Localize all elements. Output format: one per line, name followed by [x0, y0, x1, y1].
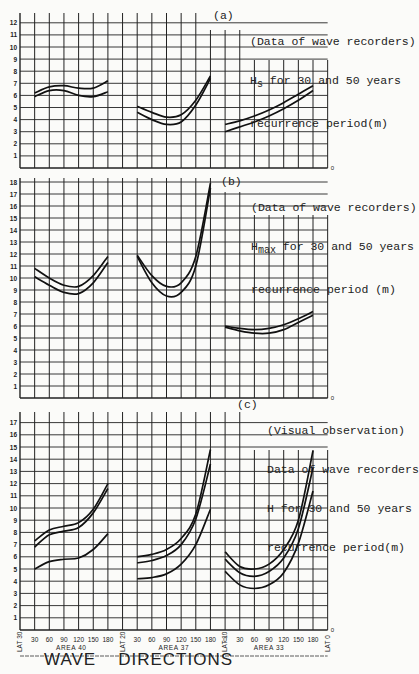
svg-text:4: 4	[13, 116, 17, 123]
svg-text:13: 13	[10, 468, 18, 475]
svg-text:90: 90	[265, 636, 273, 643]
svg-text:6: 6	[13, 92, 17, 99]
svg-text:18: 18	[10, 179, 18, 186]
panel-b-label: (b)	[221, 175, 242, 188]
curve-middle	[137, 464, 210, 563]
svg-text:180: 180	[102, 636, 113, 643]
svg-text:LAT 30: LAT 30	[16, 631, 23, 652]
svg-text:12: 12	[10, 480, 18, 487]
svg-text:9: 9	[13, 287, 17, 294]
svg-text:16: 16	[10, 203, 18, 210]
svg-text:8: 8	[13, 68, 17, 75]
x-axis-title: WAVEDIRECTIONS	[44, 650, 255, 670]
svg-text:5: 5	[13, 566, 17, 573]
svg-text:30: 30	[236, 636, 244, 643]
svg-text:LAT 0: LAT 0	[324, 635, 331, 652]
panel-a-label: (a)	[213, 9, 234, 22]
svg-text:9: 9	[13, 56, 17, 63]
svg-text:3: 3	[13, 359, 17, 366]
svg-text:14: 14	[10, 227, 18, 234]
panel-b-annotation: (Data of wave recorders) Hmax for 30 and…	[251, 175, 417, 309]
svg-text:0: 0	[331, 165, 335, 171]
svg-text:14: 14	[10, 456, 18, 463]
svg-text:5: 5	[13, 335, 17, 342]
svg-text:1: 1	[13, 614, 17, 621]
curve-50-years	[137, 183, 210, 287]
svg-text:6: 6	[13, 553, 17, 560]
svg-text:LAT 20: LAT 20	[119, 631, 126, 652]
curve-middle	[35, 488, 108, 547]
curve-50-years	[137, 76, 210, 117]
svg-text:11: 11	[10, 31, 17, 38]
svg-text:0: 0	[331, 627, 335, 633]
svg-text:11: 11	[10, 263, 17, 270]
svg-text:15: 15	[10, 444, 18, 451]
panel-a-annotation: (Data of wave recorders) Hs for 30 and 5…	[250, 9, 416, 143]
svg-text:8: 8	[13, 529, 17, 536]
svg-text:120: 120	[73, 636, 84, 643]
svg-text:180: 180	[308, 636, 319, 643]
svg-text:9: 9	[13, 517, 17, 524]
svg-text:180: 180	[205, 636, 216, 643]
svg-text:30: 30	[134, 636, 142, 643]
panel-c-annotation: (Visual observation) Data of wave record…	[267, 398, 419, 567]
svg-text:5: 5	[13, 104, 17, 111]
curve-lower	[137, 509, 210, 579]
svg-text:60: 60	[148, 636, 156, 643]
svg-text:LAT 10: LAT 10	[221, 631, 228, 652]
svg-text:10: 10	[10, 44, 18, 51]
svg-text:2: 2	[13, 371, 17, 378]
svg-text:10: 10	[10, 505, 18, 512]
svg-text:7: 7	[13, 541, 17, 548]
svg-text:7: 7	[13, 80, 17, 87]
svg-text:120: 120	[176, 636, 187, 643]
svg-text:4: 4	[13, 578, 17, 585]
svg-text:3: 3	[13, 128, 17, 135]
svg-text:30: 30	[31, 636, 39, 643]
svg-text:6: 6	[13, 323, 17, 330]
svg-text:1: 1	[13, 152, 17, 159]
svg-text:7: 7	[13, 311, 17, 318]
svg-text:90: 90	[60, 636, 68, 643]
svg-text:17: 17	[10, 191, 18, 198]
panel-c-label: (c)	[237, 398, 258, 411]
svg-text:15: 15	[10, 215, 18, 222]
svg-text:16: 16	[10, 431, 18, 438]
svg-text:12: 12	[10, 19, 18, 26]
svg-text:60: 60	[46, 636, 54, 643]
svg-text:150: 150	[88, 636, 99, 643]
svg-text:12: 12	[10, 251, 18, 258]
curve-lower	[35, 534, 108, 569]
curve-upper	[137, 449, 210, 556]
svg-text:150: 150	[190, 636, 201, 643]
svg-text:2: 2	[13, 602, 17, 609]
svg-text:8: 8	[13, 299, 17, 306]
svg-text:10: 10	[10, 275, 18, 282]
svg-text:1: 1	[13, 383, 17, 390]
svg-text:13: 13	[10, 239, 18, 246]
svg-text:3: 3	[13, 590, 17, 597]
svg-text:120: 120	[278, 636, 289, 643]
svg-text:4: 4	[13, 347, 17, 354]
svg-text:150: 150	[293, 636, 304, 643]
svg-text:17: 17	[10, 419, 18, 426]
svg-text:90: 90	[163, 636, 171, 643]
svg-text:AREA 33: AREA 33	[254, 644, 285, 651]
svg-text:2: 2	[13, 140, 17, 147]
svg-text:60: 60	[251, 636, 259, 643]
svg-text:11: 11	[10, 492, 17, 499]
